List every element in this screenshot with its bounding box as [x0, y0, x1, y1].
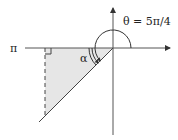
- pi-label: π: [10, 42, 17, 55]
- diagram-canvas: π α θ = 5π/4: [0, 0, 178, 140]
- reference-angle-diagram: π α θ = 5π/4: [0, 0, 178, 140]
- theta-label: θ = 5π/4: [123, 15, 171, 28]
- alpha-label: α: [80, 52, 88, 65]
